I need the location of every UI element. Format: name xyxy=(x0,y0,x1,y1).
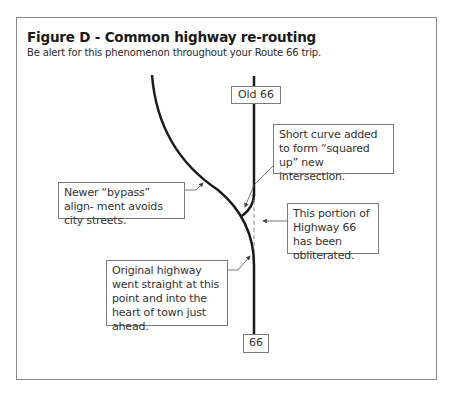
obliterated-callout: This portion of Highway 66 has been obli… xyxy=(287,203,379,254)
short-curve-leader xyxy=(245,166,273,207)
original-highway-callout: Original highway went straight at this p… xyxy=(106,260,228,326)
short-curve-road xyxy=(242,194,254,216)
original-leader xyxy=(227,256,250,270)
route-66-sign: 66 xyxy=(243,334,269,353)
old-66-sign: Old 66 xyxy=(231,86,281,104)
bypass-leader xyxy=(184,183,203,190)
bypass-callout: Newer “bypass” align- ment avoids city s… xyxy=(58,182,185,219)
short-curve-callout: Short curve added to form “squared up” n… xyxy=(273,124,394,174)
